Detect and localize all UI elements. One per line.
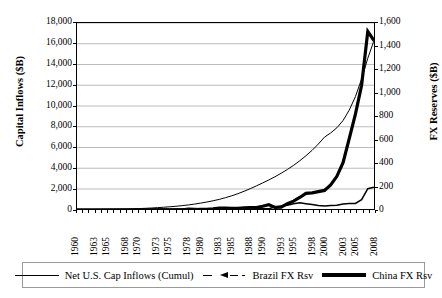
x-axis-tick-label: 1985 (227, 237, 237, 256)
y-axis-right-tick-label: 1,400 (379, 41, 400, 51)
y-axis-left-tick-label: 18,000 (46, 17, 72, 27)
legend-label-china-fx-rsv: China FX Rsv (372, 270, 432, 281)
thin-line-key-icon (15, 275, 59, 276)
y-axis-left-tick-labels: 18,00016,00014,00012,00010,0008,0006,000… (0, 22, 72, 210)
y-axis-right-tick-label: 200 (379, 182, 393, 192)
y-axis-right-tick-mark (375, 187, 378, 188)
x-axis-tick-label: 1960 (71, 237, 81, 256)
y-axis-left-tick-mark (73, 168, 76, 169)
dashed-marker-key-icon (203, 272, 247, 279)
legend-label-brazil-fx-rsv: Brazil FX Rsv (253, 270, 314, 281)
x-axis-tick-labels: 1960196319651968197019731975197819801983… (76, 212, 375, 256)
y-axis-left-tick-label: 2,000 (51, 184, 72, 194)
legend-label-us-cap-inflows: Net U.S. Cap Inflows (Cumul) (65, 270, 194, 281)
y-axis-left-tick-mark (73, 189, 76, 190)
y-axis-left-tick-label: 8,000 (51, 122, 72, 132)
y-axis-right-tick-mark (375, 93, 378, 94)
legend-item-brazil-fx-rsv: Brazil FX Rsv (203, 270, 314, 281)
y-axis-right-tick-label: 400 (379, 158, 393, 168)
y-axis-left-tick-label: 4,000 (51, 163, 72, 173)
y-axis-left-tick-mark (73, 85, 76, 86)
y-axis-left-tick-mark (73, 147, 76, 148)
y-axis-left-tick-label: 0 (67, 205, 72, 215)
y-axis-right-tick-label: 0 (379, 205, 384, 215)
x-axis-tick-label: 1990 (258, 237, 268, 256)
legend-item-us-cap-inflows: Net U.S. Cap Inflows (Cumul) (15, 270, 194, 281)
x-axis-tick-label: 1978 (183, 237, 193, 256)
y-axis-left-tick-mark (73, 22, 76, 23)
y-axis-left-tick-mark (73, 106, 76, 107)
y-axis-right-tick-mark (375, 22, 378, 23)
legend-item-china-fx-rsv: China FX Rsv (322, 270, 432, 281)
axis-tick-marks (76, 22, 375, 210)
x-axis-tick-label: 1968 (121, 237, 131, 256)
x-axis-tick-label: 1963 (90, 237, 100, 256)
x-axis-tick-label: 1965 (102, 237, 112, 256)
y-axis-left-tick-label: 12,000 (46, 80, 72, 90)
y-axis-left-tick-mark (73, 43, 76, 44)
y-axis-right-tick-label: 1,600 (379, 17, 400, 27)
y-axis-left-tick-mark (73, 64, 76, 65)
y-axis-right-tick-label: 1,000 (379, 88, 400, 98)
x-axis-tick-label: 1973 (152, 237, 162, 256)
x-axis-tick-label: 1983 (214, 237, 224, 256)
y-axis-left-tick-mark (73, 210, 76, 211)
y-axis-right-tick-label: 800 (379, 111, 393, 121)
y-axis-right-tick-labels: 1,6001,4001,2001,0008006004002000 (379, 22, 435, 210)
y-axis-right-tick-mark (375, 163, 378, 164)
x-axis-tick-label: 2003 (339, 237, 349, 256)
x-axis-tick-label: 1988 (245, 237, 255, 256)
y-axis-left-tick-mark (73, 126, 76, 127)
y-axis-right-tick-mark (375, 69, 378, 70)
y-axis-right-tick-mark (375, 140, 378, 141)
x-axis-tick-label: 1993 (277, 237, 287, 256)
chart-figure: Capital Inflows ($B) FX Reserves ($B) 18… (0, 0, 442, 298)
y-axis-right-tick-mark (375, 46, 378, 47)
x-axis-tick-label: 1970 (133, 237, 143, 256)
chart-legend: Net U.S. Cap Inflows (Cumul) Brazil FX R… (22, 262, 425, 288)
thick-line-key-icon (322, 273, 366, 277)
y-axis-right-tick-label: 600 (379, 135, 393, 145)
x-axis-tick-label: 1998 (308, 237, 318, 256)
x-axis-tick-label: 1975 (164, 237, 174, 256)
y-axis-left-tick-label: 16,000 (46, 38, 72, 48)
y-axis-right-tick-mark (375, 210, 378, 211)
x-axis-tick-label: 1980 (196, 237, 206, 256)
x-axis-tick-label: 1995 (289, 237, 299, 256)
x-axis-tick-label: 2005 (351, 237, 361, 256)
x-axis-tick-label: 2000 (320, 237, 330, 256)
y-axis-left-tick-label: 10,000 (46, 101, 72, 111)
y-axis-left-tick-label: 14,000 (46, 59, 72, 69)
y-axis-right-tick-label: 1,200 (379, 64, 400, 74)
y-axis-right-tick-mark (375, 116, 378, 117)
x-axis-tick-label: 2008 (370, 237, 380, 256)
y-axis-left-tick-label: 6,000 (51, 143, 72, 153)
